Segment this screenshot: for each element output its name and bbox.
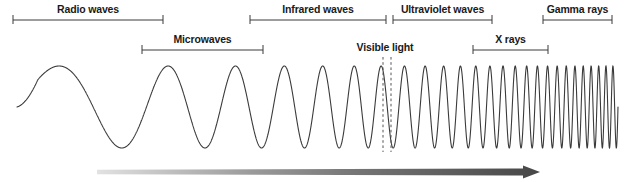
bracket-x-rays xyxy=(473,45,548,54)
band-label-radio-waves: Radio waves xyxy=(0,3,176,15)
electromagnetic-wave xyxy=(17,66,618,148)
increasing-frequency-arrow xyxy=(97,166,540,179)
band-label-microwaves: Microwaves xyxy=(142,33,263,45)
band-label-gamma-rays: Gamma rays xyxy=(543,3,612,15)
bracket-radio-waves xyxy=(13,15,163,24)
band-label-visible-light: Visible light xyxy=(352,41,418,53)
band-label-x-rays: X rays xyxy=(473,33,548,45)
spectrum-svg xyxy=(0,0,624,182)
electromagnetic-spectrum-figure: Radio waves Microwaves Infrared waves Vi… xyxy=(0,0,624,182)
band-label-infrared-waves: Infrared waves xyxy=(250,3,386,15)
bracket-microwaves xyxy=(142,45,263,54)
band-label-ultraviolet-waves: Ultraviolet waves xyxy=(393,3,492,15)
bracket-ultraviolet-waves xyxy=(393,15,492,24)
bracket-gamma-rays xyxy=(543,15,612,24)
bracket-infrared-waves xyxy=(250,15,386,24)
